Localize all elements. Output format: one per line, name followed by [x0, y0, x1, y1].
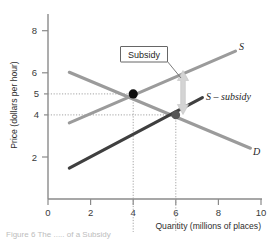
- subsidy-callout-group: Subsidy: [121, 47, 182, 79]
- curves-group: [69, 51, 250, 168]
- x-tick-label-8: 8: [216, 207, 221, 218]
- y-axis-title: Price (dollars per hour): [9, 61, 19, 149]
- guide-lines-group: [48, 94, 176, 232]
- y-tick-label-5: 5: [34, 88, 39, 99]
- y-ticks-group: [42, 31, 48, 157]
- subsidy-arrow: [177, 71, 188, 115]
- y-tick-labels-group: 8 6 5 4 2: [32, 25, 39, 162]
- callout-leader-line: [167, 61, 181, 78]
- x-tick-label-10: 10: [256, 207, 267, 218]
- y-tick-label-4: 4: [34, 109, 39, 120]
- y-tick-label-2: 2: [32, 152, 37, 163]
- axes-group: [48, 14, 262, 199]
- double-headed-arrow-icon: [177, 71, 188, 115]
- x-tick-label-0: 0: [45, 207, 50, 218]
- figure-caption-partial: Figure 6 The ..... of a Subsidy: [6, 231, 111, 239]
- point-initial-equilibrium: [129, 89, 138, 98]
- y-tick-label-8: 8: [32, 25, 37, 36]
- x-tick-labels-group: 0 2 4 6 8 10: [45, 207, 266, 218]
- demand-curve-label: D: [252, 146, 261, 157]
- x-tick-label-2: 2: [88, 207, 93, 218]
- point-subsidy-equilibrium: [172, 111, 181, 120]
- y-tick-label-6: 6: [32, 67, 37, 78]
- x-ticks-group: [48, 199, 261, 205]
- equilibrium-points-group: [129, 89, 181, 119]
- x-axis-title: Quantity (millions of places): [155, 221, 261, 231]
- figure-caption-strip: Figure 6 The ..... of a Subsidy: [0, 231, 271, 240]
- chart-canvas: 8 6 5 4 2 0 2 4 6 8 10 Price (dollars pe…: [0, 0, 271, 240]
- supply-minus-subsidy-curve-label: S – subsidy: [206, 91, 252, 102]
- callout-label-subsidy: Subsidy: [128, 50, 161, 60]
- subsidy-market-figure: 8 6 5 4 2 0 2 4 6 8 10 Price (dollars pe…: [0, 0, 271, 240]
- supply-curve-label: S: [239, 41, 244, 52]
